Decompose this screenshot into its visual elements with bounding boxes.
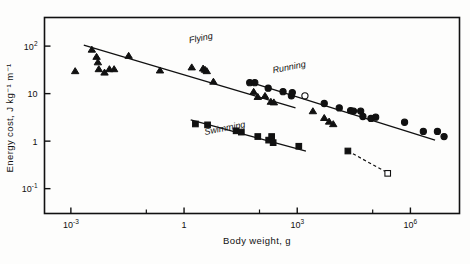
data-point-running-17 [441, 133, 447, 139]
open-circle-outlier [302, 93, 308, 99]
x-tick-label-0: 10-3 [63, 218, 79, 230]
data-point-running-5 [289, 90, 295, 96]
data-point-running-16 [434, 128, 440, 134]
data-point-swimming-8 [296, 143, 302, 149]
series-label-flying: Flying [188, 31, 213, 45]
open-square-outlier [385, 171, 391, 177]
x-tick-label-2: 103 [290, 218, 304, 230]
plot-canvas: 10210110-110-31103106FlyingRunningSwimmi… [0, 0, 470, 264]
data-point-swimming-6 [269, 134, 275, 140]
x-tick-label-3: 106 [404, 218, 418, 230]
data-point-running-6 [321, 100, 327, 106]
energy-cost-chart-figure: 10210110-110-31103106FlyingRunningSwimmi… [0, 0, 470, 264]
data-point-flying-21 [321, 114, 328, 120]
data-point-swimming-0 [193, 121, 199, 127]
data-point-swimming-7 [270, 140, 276, 146]
data-point-flying-10 [188, 64, 195, 70]
data-point-running-11 [360, 113, 366, 119]
swimming-extrapolation [348, 151, 388, 173]
data-point-running-15 [420, 128, 426, 134]
data-point-running-13 [373, 114, 379, 120]
data-point-flying-17 [261, 92, 268, 98]
y-tick-label-0: 102 [24, 40, 38, 52]
data-point-running-3 [280, 89, 286, 95]
x-tick-label-1: 1 [182, 220, 187, 230]
data-point-running-1 [252, 80, 258, 86]
data-point-flying-4 [95, 66, 102, 72]
y-tick-label-3: 10-1 [22, 182, 38, 194]
data-point-flying-0 [71, 68, 78, 74]
data-point-flying-20 [309, 108, 316, 114]
series-label-running: Running [272, 59, 307, 75]
data-point-flying-15 [250, 88, 257, 94]
data-point-swimming-4 [255, 134, 261, 140]
data-point-flying-2 [93, 53, 100, 59]
y-tick-label-2: 1 [32, 137, 37, 147]
y-axis-title: Energy cost, J kg⁻¹ m⁻¹ [4, 64, 15, 173]
data-point-flying-14 [210, 78, 217, 84]
data-point-flying-8 [125, 52, 132, 58]
data-point-running-9 [350, 108, 356, 114]
data-point-running-2 [265, 85, 271, 91]
x-axis-title: Body weight, g [223, 235, 291, 246]
y-tick-label-1: 10 [27, 89, 37, 99]
plot-frame [45, 18, 460, 214]
data-point-running-7 [336, 105, 342, 111]
data-point-running-14 [401, 119, 407, 125]
